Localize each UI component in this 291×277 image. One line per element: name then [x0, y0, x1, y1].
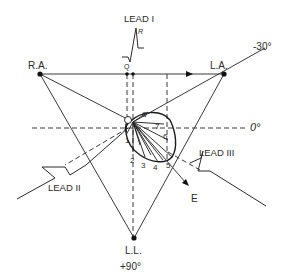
lead-i-r-label: R: [138, 28, 143, 35]
lead-ii-label: LEAD II: [48, 182, 81, 193]
lead-i-center-dot: [131, 72, 135, 76]
mean-vector-e: [133, 122, 186, 183]
ll-electrode-dot: [131, 235, 136, 240]
lead-iii-label: LEAD III: [199, 147, 234, 158]
loop-point-2: 2: [130, 156, 135, 165]
lead-i-q-label: Q: [124, 63, 130, 71]
ra-label: R.A.: [28, 60, 47, 71]
vector-e-label: E: [191, 193, 198, 204]
loop-point-4: 4: [153, 163, 158, 172]
lead-iii-waveform: [190, 151, 266, 206]
ra-electrode-dot: [37, 71, 42, 76]
loop-point-8: 8: [142, 110, 147, 119]
minus30-label: -30°: [253, 41, 271, 52]
loop-point-1: 1: [125, 136, 130, 145]
loop-point-3: 3: [141, 161, 146, 170]
lead-i-q-dot: [125, 72, 129, 76]
loop-point-5: 5: [166, 161, 171, 170]
plus90-label: +90°: [120, 261, 141, 272]
minus30-axis-line: [133, 48, 265, 122]
la-label: L.A.: [210, 60, 228, 71]
zero-degree-label: 0°: [250, 121, 261, 133]
einthoven-diagram: LEAD I R Q LEAD II LEAD III E O: [0, 0, 291, 277]
la-electrode-dot: [221, 71, 226, 76]
center-o-marker: [125, 117, 132, 124]
lead-i-label: LEAD I: [124, 13, 154, 24]
ll-label: L.L.: [125, 245, 142, 256]
lead-i-arrowhead-icon: [186, 71, 193, 77]
loop-point-6: 6: [163, 132, 168, 141]
loop-point-7: 7: [155, 122, 160, 131]
